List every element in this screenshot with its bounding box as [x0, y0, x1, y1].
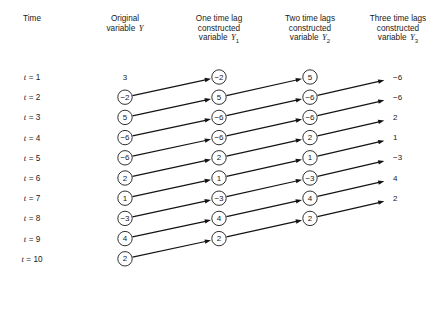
value-circle: 2 — [118, 252, 132, 266]
value-text: −6 — [120, 133, 130, 142]
value-text: −2 — [120, 93, 130, 102]
value-text: −3 — [214, 194, 224, 203]
value-plain: 4 — [393, 174, 398, 183]
time-label: t= 7 — [24, 193, 41, 203]
header-original-y: Original variableY — [107, 14, 145, 33]
value-circle: −3 — [303, 171, 317, 185]
lag-arrow — [133, 78, 211, 96]
diagram-canvas: Time Original variableY One time lag con… — [0, 0, 438, 314]
header-time: Time — [23, 14, 41, 23]
value-circle: 1 — [212, 171, 226, 185]
value-circle: 5 — [118, 110, 132, 124]
value-text: −6 — [393, 93, 403, 102]
arrow-head — [295, 118, 302, 122]
header-y2-sub: 2 — [327, 38, 331, 44]
value-plain: −3 — [393, 153, 403, 162]
time-lag-diagram: Time Original variableY One time lag con… — [0, 0, 438, 314]
value-text: −3 — [305, 174, 315, 183]
value-text: 3 — [123, 73, 128, 82]
time-label: t= 5 — [24, 153, 41, 163]
value-text: 2 — [393, 194, 398, 203]
value-circle: 2 — [212, 151, 226, 165]
value-circle: 1 — [118, 191, 132, 205]
arrow-head — [378, 201, 385, 205]
value-circle: −3 — [118, 211, 132, 225]
time-label: t= 1 — [24, 72, 41, 82]
value-circle: 5 — [303, 70, 317, 84]
lag-arrow — [227, 199, 302, 217]
lag-arrow — [318, 79, 385, 95]
header-y3-sub: 3 — [415, 38, 419, 44]
value-text: 1 — [393, 133, 398, 142]
arrow-head — [295, 179, 302, 183]
value-text: −6 — [393, 73, 403, 82]
value-text: −6 — [305, 93, 315, 102]
value-text: −2 — [214, 73, 224, 82]
time-label: t= 8 — [24, 213, 41, 223]
arrow-head — [204, 138, 211, 142]
lag-arrow — [318, 160, 385, 176]
value-text: 4 — [217, 214, 222, 223]
lag-arrow — [133, 219, 211, 237]
time-label: t= 2 — [24, 92, 41, 102]
header-y2-line1: Two time lags — [285, 14, 335, 23]
lag-arrow — [227, 159, 302, 177]
column-headers: Time Original variableY One time lag con… — [23, 14, 426, 44]
value-text: 1 — [308, 153, 313, 162]
lag-arrow — [227, 118, 302, 136]
arrow-head — [378, 120, 385, 124]
value-circle: −6 — [118, 151, 132, 165]
value-text: 1 — [123, 194, 128, 203]
value-text: −3 — [393, 153, 403, 162]
value-text: 2 — [217, 234, 222, 243]
value-circle: 1 — [303, 151, 317, 165]
lag-arrow — [227, 179, 302, 197]
value-text: 2 — [217, 153, 222, 162]
header-three-time-lags: Three time lags constructed variableY3 — [370, 14, 426, 44]
arrow-head — [204, 159, 211, 163]
value-circle: 5 — [212, 90, 226, 104]
lag-arrow — [133, 118, 211, 136]
header-y3-line3: variableY3 — [378, 32, 419, 44]
lag-arrow — [133, 138, 211, 156]
value-circle: −2 — [118, 90, 132, 104]
lag-arrow — [133, 159, 211, 177]
lag-arrow — [133, 98, 211, 116]
value-circle: 2 — [212, 231, 226, 245]
header-one-time-lag: One time lag constructed variableY1 — [196, 14, 243, 44]
arrow-head — [204, 199, 211, 203]
value-text: 4 — [123, 234, 128, 243]
value-text: 2 — [123, 174, 128, 183]
value-circle: −2 — [212, 70, 226, 84]
header-original-var: Y — [139, 23, 145, 33]
lag-arrow — [318, 180, 385, 196]
header-y2-word: variable — [290, 33, 319, 42]
value-text: −6 — [214, 113, 224, 122]
header-y1-line1: One time lag — [196, 14, 243, 23]
header-y1-word: variable — [199, 33, 228, 42]
header-y3-line1: Three time lags — [370, 14, 426, 23]
time-label: t= 10 — [21, 254, 43, 264]
lag-arrow — [133, 179, 211, 197]
value-circle: −3 — [212, 191, 226, 205]
lag-arrow — [318, 140, 385, 156]
value-text: −3 — [120, 214, 130, 223]
value-circle: 2 — [303, 211, 317, 225]
lag-arrow — [318, 120, 385, 136]
arrow-head — [295, 139, 302, 143]
value-plain: 3 — [123, 73, 128, 82]
arrow-head — [295, 98, 302, 102]
arrow-head — [378, 100, 385, 104]
header-y2-line3: variableY2 — [290, 32, 331, 44]
lag-arrow — [227, 219, 302, 237]
value-text: 5 — [217, 93, 222, 102]
lag-arrow — [133, 199, 211, 217]
value-circle: 4 — [118, 231, 132, 245]
value-text: 5 — [123, 113, 128, 122]
value-circle: 4 — [212, 211, 226, 225]
lag-arrow — [227, 78, 302, 96]
value-text: −6 — [305, 113, 315, 122]
arrow-head — [295, 219, 302, 223]
lag-arrow — [133, 239, 211, 257]
time-label: t= 6 — [24, 173, 41, 183]
